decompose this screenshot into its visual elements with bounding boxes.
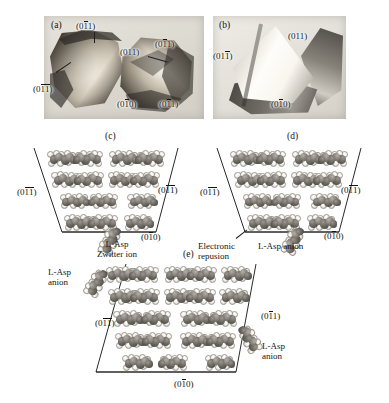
molecule-aspartate xyxy=(306,214,332,227)
face-label-d-left: (011) xyxy=(200,188,220,197)
molecule-aspartate xyxy=(134,266,160,279)
panel-b-id: (b) xyxy=(219,20,230,30)
atom-carbon xyxy=(145,360,153,368)
atom-carbon xyxy=(74,177,82,185)
molecule-aspartate xyxy=(234,171,260,184)
molecule-aspartate xyxy=(323,150,349,163)
panel-c-id: (c) xyxy=(105,131,116,141)
face-label-a-bottom-right: (011) xyxy=(159,100,178,109)
panel-d-id: (d) xyxy=(287,131,298,141)
molecule-aspartate xyxy=(105,266,131,279)
annotation-c-species: L-Asp Zwitter ion xyxy=(85,240,149,260)
molecule-aspartate xyxy=(276,214,302,227)
face-label-e-left: (011) xyxy=(95,319,115,328)
face-label-a-left: (011) xyxy=(33,85,53,94)
atom-carbon xyxy=(186,294,194,302)
molecule-aspartate xyxy=(292,150,318,163)
molecule-aspartate xyxy=(127,193,153,206)
molecule-aspartate xyxy=(163,354,189,367)
molecule-aspartate xyxy=(230,150,256,163)
panel-e-diagram xyxy=(88,262,288,384)
panel-e-id: (e) xyxy=(183,249,194,259)
molecule-aspartate xyxy=(310,193,336,206)
molecule-aspartate xyxy=(59,193,85,206)
atom-carbon xyxy=(242,294,250,302)
molecule-aspartate xyxy=(192,266,218,279)
face-label-c-left: (011) xyxy=(17,188,37,197)
molecule-aspartate xyxy=(63,214,89,227)
molecule-aspartate xyxy=(113,310,139,323)
face-label-a-upper-right: (011) xyxy=(155,40,174,49)
annotation-e-anion-left-line1: L-Asp xyxy=(48,267,71,277)
molecule-aspartate xyxy=(318,171,344,184)
face-label-d-right: (011) xyxy=(341,186,361,195)
molecule-aspartate xyxy=(221,266,247,279)
molecule-aspartate xyxy=(179,332,205,345)
face-label-a-center: (011) xyxy=(120,48,139,57)
molecule-aspartate xyxy=(93,214,119,227)
annotation-e-anion-right-line1: L-Asp xyxy=(262,341,285,351)
molecule-aspartate xyxy=(211,332,237,345)
molecule-aspartate xyxy=(246,214,272,227)
molecule-aspartate xyxy=(135,288,161,301)
face-label-b-right: (011) xyxy=(288,32,307,41)
molecule-aspartate xyxy=(135,171,161,184)
annotation-d-repulsion: Electronic repusion xyxy=(198,242,252,262)
face-label-b-left: (011) xyxy=(213,52,233,61)
face-label-d-bottom: (010) xyxy=(324,232,344,241)
face-label-e-right: (011) xyxy=(261,312,280,321)
leader-line xyxy=(94,32,95,43)
panel-a-id: (a) xyxy=(51,20,62,30)
molecule-aspartate xyxy=(109,150,135,163)
annotation-c-species-line1: L-Asp xyxy=(106,239,129,249)
molecule-aspartate xyxy=(123,214,149,227)
atom-carbon xyxy=(134,156,142,164)
annotation-e-anion-left-line2: anion xyxy=(48,277,68,287)
atom-carbon xyxy=(257,177,265,185)
molecule-aspartate xyxy=(242,193,268,206)
face-label-c-right: (011) xyxy=(158,186,178,195)
molecule-aspartate xyxy=(140,150,166,163)
molecule-aspartate xyxy=(163,266,189,279)
molecule-aspartate xyxy=(262,171,288,184)
molecule-aspartate xyxy=(204,354,230,367)
annotation-e-anion-left: L-Asp anion xyxy=(48,268,86,288)
atom-carbon xyxy=(142,338,150,346)
face-label-e-bottom: (010) xyxy=(174,380,194,389)
atom-carbon xyxy=(72,156,80,164)
molecule-aspartate xyxy=(122,354,148,367)
molecule-aspartate xyxy=(213,310,239,323)
molecule-aspartate xyxy=(51,171,77,184)
atom-carbon xyxy=(187,272,195,280)
atom-carbon xyxy=(317,156,325,164)
molecule-aspartate xyxy=(191,288,217,301)
annotation-e-anion-right-line2: anion xyxy=(262,351,282,361)
molecule-aspartate xyxy=(115,332,141,345)
molecule-aspartate xyxy=(78,150,104,163)
annotation-d-repulsion-line1: Electronic xyxy=(198,241,235,251)
atom-carbon xyxy=(147,220,155,228)
molecule-aspartate xyxy=(180,310,206,323)
atom-carbon xyxy=(255,156,263,164)
annotation-d-repulsion-line2: repusion xyxy=(198,251,229,261)
annotation-c-species-line2: Zwitter ion xyxy=(97,249,137,259)
atom-carbon xyxy=(244,272,252,280)
face-label-b-bottom: (010) xyxy=(271,100,291,109)
face-label-a-top: (011) xyxy=(76,22,95,31)
annotation-d-species: L-Asp anion xyxy=(258,242,303,251)
molecule-aspartate xyxy=(146,310,172,323)
annotation-e-anion-right: L-Asp anion xyxy=(262,342,302,362)
molecule-aspartate xyxy=(93,193,119,206)
molecule-aspartate xyxy=(79,171,105,184)
figure-root: (a) (011) (011) (011) (011) (010) (011) … xyxy=(0,0,389,403)
molecule-aspartate xyxy=(276,193,302,206)
molecule-aspartate xyxy=(219,288,245,301)
molecule-aspartate xyxy=(261,150,287,163)
molecule-aspartate xyxy=(147,332,173,345)
atom-carbon xyxy=(330,220,338,228)
molecule-aspartate xyxy=(47,150,73,163)
atom-carbon xyxy=(228,360,236,368)
face-label-a-bottom-left: (010) xyxy=(117,100,137,109)
